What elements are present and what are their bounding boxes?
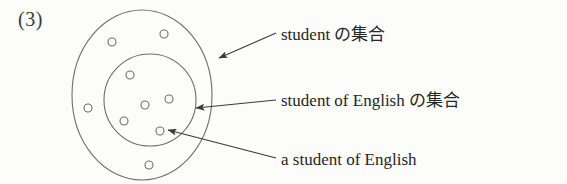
outer-circle [72, 10, 212, 180]
inner-dot [141, 101, 149, 109]
callout-label-outer-set: student の集合 [281, 26, 385, 43]
callout-label-element: a student of English [281, 151, 417, 168]
arrow-outer-set [219, 33, 276, 58]
arrow-inner-set [196, 100, 276, 108]
annulus-dot-group [84, 30, 168, 169]
figure-index-label: (3) [18, 9, 43, 29]
inner-circle [104, 54, 196, 146]
set-diagram-figure: (3) student の集合 student of English の集合 a… [0, 0, 567, 184]
inner-dot [165, 95, 173, 103]
inner-dot-group [120, 71, 173, 135]
annulus-dot [160, 30, 168, 38]
inner-element-dot [156, 127, 164, 135]
annulus-dot [145, 161, 153, 169]
annulus-dot [108, 38, 116, 46]
inner-dot [120, 117, 128, 125]
inner-dot [126, 71, 134, 79]
arrow-element [168, 130, 276, 158]
callout-label-inner-set: student of English の集合 [281, 92, 460, 109]
annulus-dot [84, 104, 92, 112]
